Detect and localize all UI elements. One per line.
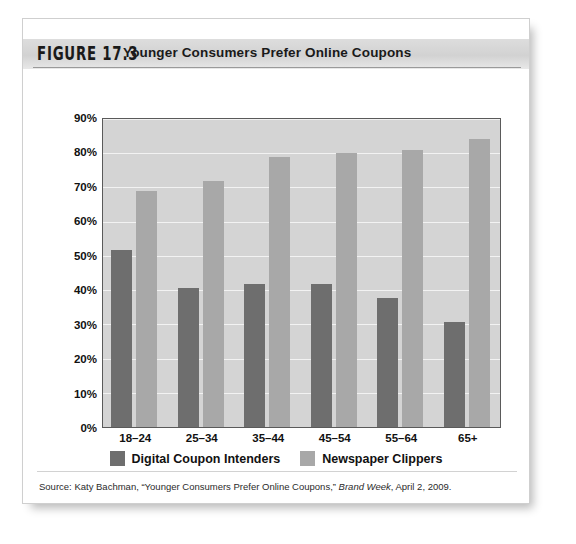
x-axis-tick-label: 18–24 [102,432,169,444]
bars-layer [103,119,500,427]
figure-header-rule [33,67,521,68]
bar-digital-coupon-intenders [444,322,465,427]
legend-swatch-icon [300,451,315,466]
y-axis-tick-label: 10% [23,388,97,400]
y-axis-tick-label: 60% [23,215,97,227]
bar-newspaper-clippers [203,181,224,427]
y-axis-tick-label: 70% [23,181,97,193]
figure-title: Younger Consumers Prefer Online Coupons [123,45,411,60]
bar-digital-coupon-intenders [111,250,132,427]
bar-digital-coupon-intenders [178,288,199,428]
bar-newspaper-clippers [136,191,157,427]
y-axis-tick-label: 20% [23,353,97,365]
legend-item: Digital Coupon Intenders [110,451,281,466]
bar-newspaper-clippers [336,153,357,427]
bar-group [103,119,170,427]
bar-digital-coupon-intenders [377,298,398,427]
bar-newspaper-clippers [402,150,423,427]
source-note-suffix: , April 2, 2009. [391,481,452,492]
chart-legend: Digital Coupon IntendersNewspaper Clippe… [23,451,529,466]
y-axis-tick-label: 30% [23,319,97,331]
plot-frame [102,118,501,428]
bar-group [436,119,503,427]
y-axis: 0%10%20%30%40%50%60%70%80%90% [23,118,97,428]
y-axis-tick-label: 90% [23,112,97,124]
x-axis: 18–2425–3435–4445–5455–6465+ [102,430,501,450]
figure-container: FIGURE 17.3 Younger Consumers Prefer Onl… [22,18,530,504]
bar-group [170,119,237,427]
y-axis-tick-label: 0% [23,422,97,434]
y-axis-tick-label: 40% [23,284,97,296]
legend-label: Newspaper Clippers [322,452,442,466]
bar-digital-coupon-intenders [244,284,265,427]
x-axis-tick-label: 65+ [435,432,502,444]
chart-area: 0%10%20%30%40%50%60%70%80%90% 18–2425–34… [23,79,529,459]
source-divider [37,471,517,472]
bar-digital-coupon-intenders [311,284,332,427]
bar-group [369,119,436,427]
x-axis-tick-label: 55–64 [368,432,435,444]
legend-swatch-icon [110,451,125,466]
bar-newspaper-clippers [469,139,490,427]
y-axis-tick-label: 80% [23,146,97,158]
legend-label: Digital Coupon Intenders [132,452,281,466]
source-note: Source: Katy Bachman, “Younger Consumers… [39,481,451,492]
bar-newspaper-clippers [269,157,290,427]
x-axis-tick-label: 25–34 [169,432,236,444]
x-axis-tick-label: 45–54 [302,432,369,444]
source-note-prefix: Source: Katy Bachman, “Younger Consumers… [39,481,339,492]
bar-group [236,119,303,427]
legend-item: Newspaper Clippers [300,451,442,466]
x-axis-tick-label: 35–44 [235,432,302,444]
source-note-publication: Brand Week [339,481,391,492]
bar-group [303,119,370,427]
y-axis-tick-label: 50% [23,250,97,262]
